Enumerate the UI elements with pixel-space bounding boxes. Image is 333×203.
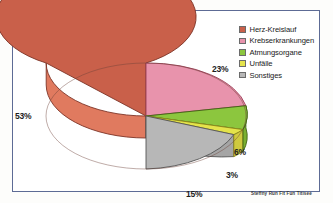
legend-swatch-icon: [239, 26, 246, 33]
legend-label: Atmungsorgane: [250, 48, 302, 57]
legend-label: Herz-Kreislauf: [250, 25, 297, 34]
data-label-atmungsorgane: 6%: [234, 147, 246, 157]
watermark-text: Steffny Run Fit Fun Titisee: [251, 191, 312, 196]
data-label-unfaelle: 3%: [226, 170, 238, 180]
chart-legend: Herz-Kreislauf Krebserkrankungen Atmungs…: [239, 24, 333, 81]
pie-top-faces: [0, 0, 247, 169]
legend-swatch-icon: [239, 49, 246, 56]
data-label-krebserkrankungen: 23%: [212, 64, 228, 74]
legend-item-atmungsorgane[interactable]: Atmungsorgane: [239, 47, 333, 58]
legend-item-unfaelle[interactable]: Unfälle: [239, 58, 333, 69]
data-label-herz-kreislauf: 53%: [15, 111, 31, 121]
legend-label: Unfälle: [250, 59, 273, 68]
chart-frame: 53% 23% 6% 3% 15% Herz-Kreislauf Krebser…: [12, 10, 320, 192]
legend-item-sonstiges[interactable]: Sonstiges: [239, 70, 333, 81]
legend-item-krebserkrankungen[interactable]: Krebserkrankungen: [239, 35, 333, 46]
chart-figure: 53% 23% 6% 3% 15% Herz-Kreislauf Krebser…: [0, 0, 333, 203]
legend-swatch-icon: [239, 72, 246, 79]
legend-label: Sonstiges: [250, 71, 282, 80]
legend-swatch-icon: [239, 60, 246, 67]
legend-swatch-icon: [239, 38, 246, 45]
legend-label: Krebserkrankungen: [250, 36, 315, 45]
legend-item-herz-kreislauf[interactable]: Herz-Kreislauf: [239, 24, 333, 35]
data-label-sonstiges: 15%: [186, 189, 202, 199]
